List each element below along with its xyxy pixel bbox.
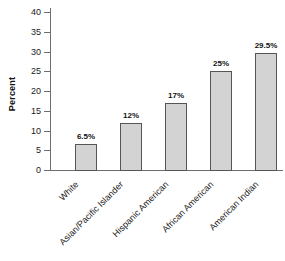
y-axis-tick-label: 25 xyxy=(6,67,50,76)
x-axis-category-label-text: White xyxy=(58,180,81,203)
bar-value-label: 29.5% xyxy=(242,42,285,50)
bar-value-label: 25% xyxy=(197,60,245,68)
y-axis-tick-label: 5 xyxy=(6,146,50,155)
y-axis-tick-label: 0 xyxy=(6,166,50,175)
x-axis-category-label-text: African American xyxy=(161,180,215,234)
bar-chart: Percent 0510152025303540 6.5%12%17%25%29… xyxy=(0,0,285,261)
y-axis-tick-label: 10 xyxy=(6,126,50,135)
y-axis-tick-label: 40 xyxy=(6,8,50,17)
bar-value-label: 12% xyxy=(107,112,155,120)
bar-value-label: 6.5% xyxy=(62,133,110,141)
bar[interactable] xyxy=(75,144,97,171)
bar[interactable] xyxy=(255,53,277,171)
bar[interactable] xyxy=(120,123,142,171)
bar[interactable] xyxy=(210,71,232,171)
y-axis-line xyxy=(50,8,51,171)
x-axis-category-label-text: American Indian xyxy=(208,180,260,232)
y-axis-tick-label: 20 xyxy=(6,87,50,96)
y-axis-tick-label: 35 xyxy=(6,27,50,36)
bar[interactable] xyxy=(165,103,187,171)
bar-value-label: 17% xyxy=(152,92,200,100)
y-axis-tick-label: 30 xyxy=(6,47,50,56)
y-axis-tick-label: 15 xyxy=(6,106,50,115)
